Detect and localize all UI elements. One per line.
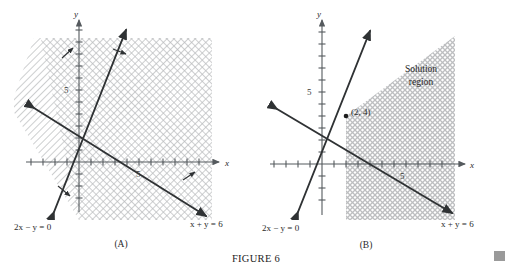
- solution-region-label-line2: region: [409, 77, 434, 87]
- panel-b-x-tick-label-5: 5: [400, 171, 405, 181]
- page-corner-mark: [494, 251, 505, 261]
- panel-a-line2-equation-label: x + y = 6: [190, 219, 223, 229]
- panel-a-line1-equation-label: 2x − y = 0: [14, 222, 52, 232]
- figure-6-svg: x y 5 5 2x − y = 0 x + y = 6 (A): [0, 0, 512, 268]
- vertex-label-2-4: (2, 4): [351, 107, 371, 117]
- figure-6-container: x y 5 5 2x − y = 0 x + y = 6 (A): [0, 0, 512, 268]
- panel-b: x y 5 5 (2, 4) Solution region 2x − y = …: [262, 9, 474, 251]
- vertex-point-2-4: [344, 114, 349, 119]
- panel-b-shading: [346, 36, 455, 220]
- panel-a-y-axis-label: y: [73, 9, 78, 19]
- panel-b-line1-equation-label: 2x − y = 0: [262, 223, 300, 233]
- figure-caption: FIGURE 6: [232, 253, 280, 264]
- panel-b-line2-equation-label: x + y = 6: [441, 219, 474, 229]
- solution-region-shading: [346, 36, 455, 220]
- panel-a: x y 5 5 2x − y = 0 x + y = 6 (A): [11, 9, 229, 250]
- panel-a-y-tick-label-5: 5: [64, 85, 69, 95]
- panel-a-label: (A): [114, 239, 127, 250]
- panel-b-y-tick-label-5: 5: [307, 87, 312, 97]
- panel-b-y-axis-label: y: [316, 9, 321, 19]
- panel-b-label: (B): [360, 240, 373, 251]
- panel-b-x-axis-label: x: [469, 160, 474, 170]
- solution-region-label-line1: Solution: [405, 64, 437, 74]
- panel-a-x-axis-label: x: [224, 158, 229, 168]
- panel-a-x-tick-label-5: 5: [136, 169, 141, 179]
